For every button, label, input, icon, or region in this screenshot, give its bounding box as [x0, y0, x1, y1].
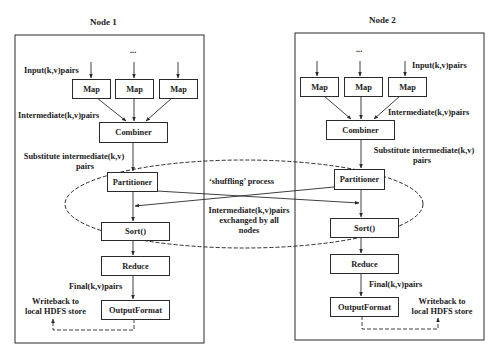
node1-input-arrows: [91, 62, 178, 78]
node1-map-1: Map: [72, 79, 111, 99]
shuffle-exchange-line2: exchanged by all: [203, 216, 295, 226]
node2-combiner: Combiner: [326, 120, 395, 140]
node1-substitute-line2: pairs: [36, 162, 134, 172]
node2-writeback-line2: local HDFS store: [404, 307, 480, 317]
node2-map-1: Map: [300, 77, 339, 97]
shuffle-exchange-label: Intermediate(k,v)pairs exchanged by all …: [203, 206, 295, 236]
node2-sort: Sort(): [330, 218, 399, 238]
node1-map-2: Map: [115, 79, 154, 99]
shuffle-exchange-line1: Intermediate(k,v)pairs: [203, 206, 295, 216]
node1-substitute-label: Substitute intermediate(k,v) pairs: [14, 152, 134, 172]
node1-writeback-line2: local HDFS store: [18, 307, 93, 317]
node2-substitute-line1: Substitute intermediate(k,v): [365, 146, 483, 156]
node2-writeback-line1: Writeback to: [404, 297, 480, 307]
node1-final-label: Final(k,v)pairs: [69, 282, 122, 292]
node1-substitute-line1: Substitute intermediate(k,v): [14, 152, 134, 162]
node1-writeback-arrow: [53, 319, 134, 330]
node1-partitioner: Partitioner: [107, 172, 158, 192]
node2-input-arrows: [317, 61, 405, 76]
node2-map-3: Map: [388, 77, 427, 97]
node2-writeback-label: Writeback to local HDFS store: [404, 297, 480, 317]
node2-outputformat: OutputFormat: [330, 297, 399, 317]
node1-writeback-label: Writeback to local HDFS store: [18, 297, 93, 317]
node1-title: Node 1: [90, 17, 117, 27]
node2-map-2: Map: [344, 77, 383, 97]
node1-combiner: Combiner: [99, 122, 168, 143]
node2-reduce: Reduce: [330, 254, 399, 274]
node2-final-label: Final(k,v)pairs: [369, 280, 422, 290]
node1-reduce: Reduce: [101, 256, 170, 276]
node2-substitute-line2: pairs: [361, 156, 483, 166]
node1-input-label: Input(k,v)pairs: [24, 66, 79, 76]
shuffle-exchange-arrows: [135, 187, 359, 206]
shuffle-title: ‘shuffling’ process: [209, 177, 274, 187]
node2-ellipsis: ...: [356, 45, 362, 55]
node1-outputformat: OutputFormat: [101, 300, 170, 320]
node2-input-label: Input(k,v)pairs: [412, 61, 467, 71]
node2-intermediate-label: Intermediate(k,v)pairs: [388, 108, 469, 118]
node1-writeback-line1: Writeback to: [18, 297, 93, 307]
node1-intermediate-label: Intermediate(k,v)pairs: [18, 111, 99, 121]
node2-writeback-arrow: [362, 316, 438, 329]
node1-map-3: Map: [159, 79, 198, 99]
node1-ellipsis: ...: [130, 46, 136, 56]
shuffle-exchange-line3: nodes: [203, 226, 295, 236]
node2-title: Node 2: [369, 15, 396, 25]
node1-sort: Sort(): [101, 222, 170, 241]
node2-substitute-label: Substitute intermediate(k,v) pairs: [365, 146, 483, 166]
node2-partitioner: Partitioner: [334, 169, 385, 190]
